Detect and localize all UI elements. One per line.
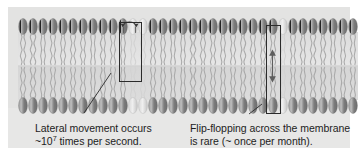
- lipid-head-lower: [49, 98, 58, 114]
- lateral-caption-prefix: ~10: [35, 135, 53, 147]
- lipid-head-lower: [59, 98, 68, 114]
- lipid-head-upper: [199, 19, 208, 35]
- lipid-head-upper: [149, 19, 158, 35]
- lipid-head-lower: [129, 98, 138, 114]
- lipid-head-lower: [289, 98, 298, 114]
- lipid-head-lower: [339, 98, 348, 114]
- lipid-head-upper: [239, 19, 248, 35]
- lipid-bilayer-diagram: [18, 16, 358, 116]
- lipid-head-upper: [109, 19, 118, 35]
- lipid-head-lower: [149, 98, 158, 114]
- lipid-head-lower: [299, 98, 308, 114]
- lateral-caption-line-2: ~107 times per second.: [35, 135, 152, 148]
- lipid-head-upper: [29, 19, 38, 35]
- lipid-head-lower: [139, 98, 148, 114]
- lipid-head-upper: [329, 19, 338, 35]
- figure-root: Lateral movement occurs ~107 times per s…: [0, 0, 358, 163]
- lipid-head-upper: [339, 19, 348, 35]
- flipflop-caption-line-2: is rare (~ once per month).: [190, 135, 350, 148]
- lipid-head-upper: [69, 19, 78, 35]
- lipid-head-upper: [159, 19, 168, 35]
- lipid-head-upper: [289, 19, 298, 35]
- lipid-head-lower: [99, 98, 108, 114]
- lipid-head-upper: [219, 19, 228, 35]
- lipid-head-upper: [229, 19, 238, 35]
- lipid-head-lower: [39, 98, 48, 114]
- flip-flop-caption: Flip-flopping across the membrane is rar…: [190, 122, 350, 148]
- lipid-head-lower: [19, 98, 28, 114]
- lipid-head-lower: [199, 98, 208, 114]
- lateral-caption-suffix: times per second.: [57, 135, 142, 147]
- lateral-movement-caption: Lateral movement occurs ~107 times per s…: [35, 122, 152, 148]
- lipid-head-lower: [109, 98, 118, 114]
- lipid-head-upper: [89, 19, 98, 35]
- lipid-head-lower: [209, 98, 218, 114]
- lipid-head-lower: [219, 98, 228, 114]
- lipid-head-lower: [319, 98, 328, 114]
- lipid-head-lower: [309, 98, 318, 114]
- lipid-head-upper: [79, 19, 88, 35]
- lipid-head-lower: [179, 98, 188, 114]
- lipid-head-lower: [79, 98, 88, 114]
- lipid-head-upper: [169, 19, 178, 35]
- lipid-head-upper: [59, 19, 68, 35]
- lipid-head-lower: [239, 98, 248, 114]
- lipid-head-upper: [49, 19, 58, 35]
- lipid-head-lower: [29, 98, 38, 114]
- lipid-head-upper: [309, 19, 318, 35]
- lipid-head-lower: [329, 98, 338, 114]
- lipid-head-lower: [69, 98, 78, 114]
- lipid-head-lower: [349, 98, 358, 114]
- lipid-head-upper: [299, 19, 308, 35]
- lipid-head-upper: [209, 19, 218, 35]
- lipid-head-upper: [19, 19, 28, 35]
- lipid-head-upper: [39, 19, 48, 35]
- lipid-head-lower: [189, 98, 198, 114]
- lipid-head-lower: [159, 98, 168, 114]
- lipid-head-upper: [99, 19, 108, 35]
- lateral-movement-highlight-box: [119, 22, 142, 82]
- flip-flop-highlight-box: [266, 25, 281, 114]
- flipflop-caption-line-1: Flip-flopping across the membrane: [190, 122, 350, 135]
- lipid-head-upper: [249, 19, 258, 35]
- lipid-head-upper: [349, 19, 358, 35]
- lipid-head-upper: [319, 19, 328, 35]
- lipid-head-lower: [249, 98, 258, 114]
- lipid-head-lower: [229, 98, 238, 114]
- lipid-head-lower: [89, 98, 98, 114]
- lipid-head-upper: [189, 19, 198, 35]
- lipid-head-upper: [179, 19, 188, 35]
- figure-panel: Lateral movement occurs ~107 times per s…: [8, 7, 350, 148]
- lipid-head-lower: [119, 98, 128, 114]
- lipid-head-lower: [169, 98, 178, 114]
